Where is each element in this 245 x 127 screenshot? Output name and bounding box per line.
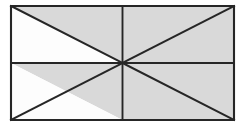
triangles-figure xyxy=(0,0,245,127)
figure-container xyxy=(0,0,245,127)
figure-lines xyxy=(11,6,234,120)
